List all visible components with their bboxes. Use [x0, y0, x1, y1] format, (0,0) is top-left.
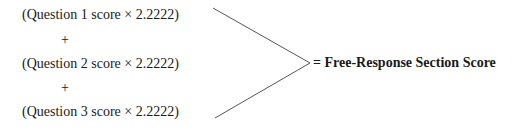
free-response-section-score-label: = Free-Response Section Score	[313, 55, 496, 71]
